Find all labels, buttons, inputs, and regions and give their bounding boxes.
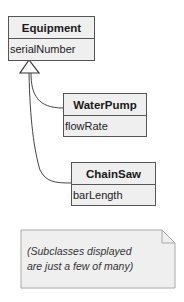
class-attribute: barLength (72, 185, 155, 205)
note-text: (Subclasses displayed are just a few of … (27, 244, 133, 274)
note: (Subclasses displayed are just a few of … (21, 230, 176, 288)
class-name: WaterPump (64, 94, 146, 116)
class-name: ChainSaw (72, 163, 155, 185)
class-attribute: flowRate (64, 116, 146, 136)
class-name: Equipment (9, 17, 94, 39)
generalization-arrowhead-icon (20, 60, 39, 73)
class-attribute: serialNumber (9, 39, 94, 59)
waterpump-inheritance-line (31, 73, 63, 108)
class-waterpump[interactable]: WaterPump flowRate (63, 93, 147, 137)
class-chainsaw[interactable]: ChainSaw barLength (71, 162, 156, 206)
class-equipment[interactable]: Equipment serialNumber (8, 16, 95, 61)
note-line-1: (Subclasses displayed (27, 244, 133, 259)
note-line-2: are just a few of many) (27, 259, 133, 274)
